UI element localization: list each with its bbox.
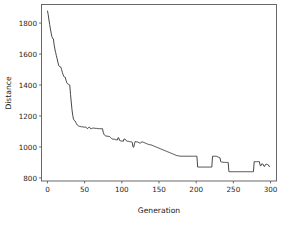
x-tick-label: 250: [227, 185, 241, 194]
y-tick-label: 800: [23, 174, 37, 183]
y-tick-label: 1800: [19, 19, 38, 28]
y-tick-label: 1000: [19, 143, 38, 152]
line-chart: 80010001200140016001800 0501001502002503…: [0, 0, 283, 229]
y-tick-label: 1400: [19, 81, 38, 90]
figure-container: 80010001200140016001800 0501001502002503…: [0, 0, 283, 229]
x-axis-title: Generation: [138, 206, 181, 215]
x-tick-label: 200: [189, 185, 203, 194]
chart-background: [0, 0, 283, 229]
x-tick-label: 50: [80, 185, 90, 194]
y-tick-label: 1600: [19, 50, 38, 59]
y-axis-title: Distance: [4, 76, 13, 110]
y-tick-label: 1200: [19, 112, 38, 121]
x-tick-label: 150: [152, 185, 166, 194]
x-tick-label: 100: [115, 185, 129, 194]
x-tick-label: 300: [264, 185, 278, 194]
x-tick-label: 0: [45, 185, 50, 194]
